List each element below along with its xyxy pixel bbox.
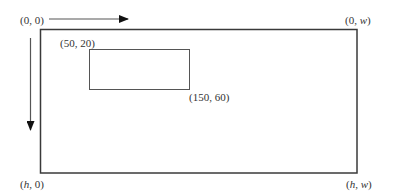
label-bottom-right: (h, w): [346, 178, 372, 191]
label-bottom-left-suffix: , 0): [29, 178, 44, 191]
label-bottom-left: (h, 0): [20, 178, 44, 191]
label-top-right: (0, w): [345, 14, 371, 27]
label-bottom-right-close: ): [368, 178, 372, 191]
label-top-left: (0, 0): [20, 14, 44, 27]
roi-rectangle: [90, 50, 190, 90]
label-top-right-prefix: (0,: [345, 14, 360, 27]
coordinate-diagram: (0, 0) (0, w) (h, 0) (h, w) (50, 20) (15…: [0, 0, 394, 193]
label-roi-bottom-right: (150, 60): [189, 91, 230, 104]
label-top-right-close: ): [367, 14, 371, 27]
label-roi-top-left: (50, 20): [60, 37, 95, 50]
